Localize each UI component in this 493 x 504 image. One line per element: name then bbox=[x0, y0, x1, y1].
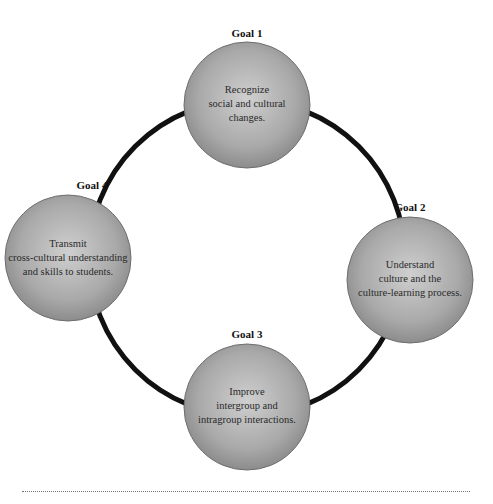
goal-4-text: Transmit cross-cultural understanding an… bbox=[3, 237, 133, 279]
goal-2-line-1: Understand bbox=[345, 258, 475, 272]
dotted-divider bbox=[22, 491, 470, 492]
goal-4-line-2: cross-cultural understanding bbox=[3, 251, 133, 265]
goal-3-line-2: intergroup and bbox=[182, 399, 312, 413]
goal-3-text: Improve intergroup and intragroup intera… bbox=[182, 385, 312, 427]
goal-4-line-1: Transmit bbox=[3, 237, 133, 251]
goal-1-text: Recognize social and cultural changes. bbox=[182, 83, 312, 125]
goal-1-line-1: Recognize bbox=[182, 83, 312, 97]
goal-4-line-3: and skills to students. bbox=[3, 265, 133, 279]
goal-2-line-3: culture-learning process. bbox=[345, 286, 475, 300]
goal-1-line-3: changes. bbox=[182, 111, 312, 125]
goal-3-label: Goal 3 bbox=[207, 328, 287, 340]
goal-3-line-1: Improve bbox=[182, 385, 312, 399]
goal-2-text: Understand culture and the culture-learn… bbox=[345, 258, 475, 300]
goal-4-label: Goal 4 bbox=[52, 179, 132, 191]
goal-1-line-2: social and cultural bbox=[182, 97, 312, 111]
goal-1-label: Goal 1 bbox=[207, 27, 287, 39]
goal-2-line-2: culture and the bbox=[345, 272, 475, 286]
goal-3-line-3: intragroup interactions. bbox=[182, 413, 312, 427]
goal-2-label: Goal 2 bbox=[370, 201, 450, 213]
